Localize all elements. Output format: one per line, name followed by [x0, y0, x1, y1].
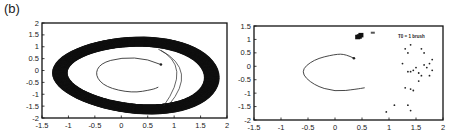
y-tick-label: -0.5	[238, 75, 251, 84]
y-tick-label: -1	[244, 89, 251, 98]
right-plot-annotation: T0 = 1 brush	[398, 34, 425, 39]
spiral-trace	[303, 54, 364, 91]
x-tick-label: 0.5	[142, 121, 152, 130]
scatter-point	[412, 90, 414, 92]
scatter-point	[404, 48, 406, 50]
x-tick-label: 0	[333, 123, 337, 132]
scatter-point	[418, 80, 420, 82]
scatter-point	[429, 63, 431, 65]
y-tick-label: 1	[35, 42, 39, 51]
x-tick-label: -0.5	[88, 121, 101, 130]
x-tick-label: -1	[65, 121, 72, 130]
right-plot-frame	[254, 26, 443, 120]
y-tick-label: 0.5	[241, 48, 251, 57]
scatter-point	[385, 111, 387, 113]
left-plot-data	[53, 37, 220, 114]
y-tick-label: 0.5	[29, 54, 39, 63]
scatter-point	[431, 59, 433, 61]
x-tick-label: -1	[278, 123, 285, 132]
scatter-point	[410, 110, 412, 112]
y-tick-label: 1.5	[29, 30, 39, 39]
scatter-point	[415, 67, 417, 69]
scatter-point	[421, 48, 423, 50]
y-tick-label: -2	[32, 114, 39, 123]
y-tick-label: -0.5	[26, 78, 39, 87]
y-tick-label: 1.5	[241, 22, 251, 31]
scatter-point	[412, 69, 414, 71]
scatter-point	[404, 87, 406, 89]
scatter-point	[418, 72, 420, 74]
scatter-point	[407, 71, 409, 73]
right-plot: -1.5-1-0.500.511.521.510.50-0.5-1-1.5-2 …	[238, 22, 445, 132]
y-tick-label: -1.5	[238, 102, 251, 111]
scatter-point	[402, 63, 404, 65]
y-tick-label: 0	[35, 66, 39, 75]
scatter-point	[429, 75, 431, 77]
x-tick-label: 1.5	[195, 121, 205, 130]
scatter-point	[410, 71, 412, 73]
x-tick-label: 0.5	[357, 123, 367, 132]
scatter-point	[423, 64, 425, 66]
scatter-point	[410, 88, 412, 90]
left-plot: -1.5-1-0.500.511.5221.510.50-0.5-1-1.5-2	[26, 19, 229, 130]
scatter-point	[407, 104, 409, 106]
x-tick-label: 2	[441, 123, 445, 132]
x-tick-label: 2	[225, 121, 229, 130]
y-tick-label: -1.5	[26, 102, 39, 111]
x-tick-label: 0	[119, 121, 123, 130]
scatter-point	[421, 75, 423, 77]
y-tick-label: 1	[247, 35, 251, 44]
spiral-trace	[97, 58, 161, 92]
scatter-point	[407, 52, 409, 54]
scatter-point	[423, 52, 425, 54]
x-tick-label: -0.5	[302, 123, 315, 132]
scatter-point	[431, 69, 433, 71]
scatter-point	[410, 44, 412, 46]
x-tick-label: 1	[172, 121, 176, 130]
scatter-point	[426, 67, 428, 69]
x-tick-label: 1	[387, 123, 391, 132]
y-tick-label: -1	[32, 90, 39, 99]
scatter-point	[394, 104, 396, 106]
figure-canvas: -1.5-1-0.500.511.5221.510.50-0.5-1-1.5-2…	[0, 0, 457, 138]
x-tick-label: 1.5	[411, 123, 421, 132]
right-plot-data	[303, 32, 433, 113]
y-tick-label: 2	[35, 19, 39, 28]
y-tick-label: -2	[244, 116, 251, 125]
y-tick-label: 0	[247, 62, 251, 71]
